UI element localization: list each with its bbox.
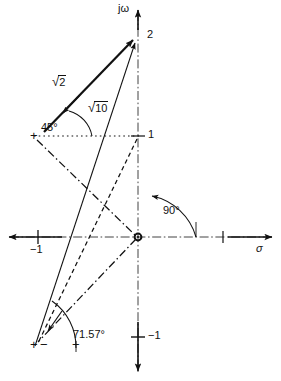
pole-marker-lower-left-plus: + (30, 338, 38, 351)
minus-tick-bottom: − (72, 338, 80, 351)
tick-label-imag-1: 1 (148, 129, 154, 140)
imaginary-axis-label: jω (118, 3, 129, 14)
dashed-imag1-to-lowerpole (38, 139, 137, 343)
pole-marker-lower-left-minus: − (40, 338, 48, 351)
tick-label-real-neg1: −1 (30, 244, 43, 255)
tick-label-imag-2: 2 (147, 29, 153, 40)
sqrt2-label: √2 (51, 74, 66, 89)
splane-diagram: jω σ 2 1 −1 −1 √2 √10 45° 71.57° 90° + +… (0, 0, 281, 381)
dashdot-origin-to-lowerpole (38, 239, 136, 342)
angle-label-90: 90° (163, 205, 180, 216)
sqrt2-vector-backarrow (63, 95, 80, 113)
dashdot-upperpole-to-origin (37, 140, 136, 236)
tick-label-imag-neg1: −1 (148, 330, 161, 341)
sqrt10-label: √10 (87, 100, 108, 115)
arc-90deg (152, 196, 196, 237)
plot-canvas (0, 0, 281, 381)
axis-group (9, 10, 272, 372)
pole-marker-upper-left: + (30, 129, 38, 142)
real-axis-label: σ (256, 243, 263, 254)
sqrt10-vector-backarrow (48, 311, 62, 331)
sqrt10-radicand: 10 (94, 101, 108, 114)
sqrt2-radicand: 2 (58, 75, 66, 88)
angle-label-45: 45° (41, 122, 58, 133)
